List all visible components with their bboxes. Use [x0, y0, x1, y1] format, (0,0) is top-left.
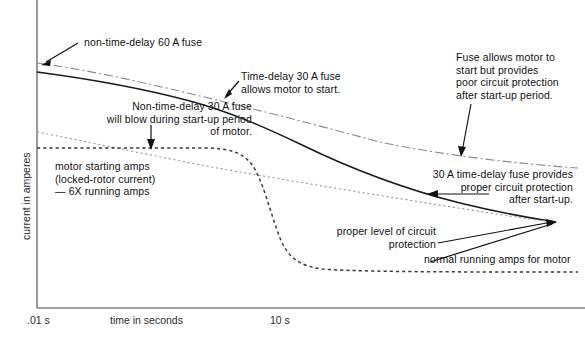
x-axis-tick-left: .01 s — [27, 314, 50, 327]
arrowhead-non-time-delay-60a — [41, 60, 51, 66]
arrowhead-non-time-delay-30a — [147, 139, 155, 150]
annotation-non-time-delay-60a: non-time-delay 60 A fuse — [84, 36, 202, 49]
x-axis-label: time in seconds — [110, 314, 183, 327]
annotation-non-time-delay-30a: Non-time-delay 30 A fuse will blow durin… — [57, 100, 252, 138]
leader-line-proper-level-upper — [438, 222, 552, 243]
x-axis-tick-right: 10 s — [270, 314, 290, 327]
annotation-proper-level-protection: proper level of circuit protection — [326, 225, 436, 250]
annotation-motor-starting-amps: motor starting amps (locked-rotor curren… — [55, 160, 155, 198]
leader-line-fuse-allows — [462, 104, 471, 152]
annotation-fuse-allows-motor: Fuse allows motor to start but provides … — [456, 51, 559, 101]
y-axis-label: current in amperes — [20, 152, 33, 240]
arrowhead-proper-level — [546, 219, 557, 227]
annotation-normal-running-amps: normal running amps for motor — [424, 253, 571, 266]
leader-line-non-time-delay-60a — [46, 43, 78, 62]
annotation-time-delay-30a: Time-delay 30 A fuse allows motor to sta… — [241, 70, 341, 95]
time-current-curve-chart: non-time-delay 60 A fuse Time-delay 30 A… — [0, 0, 585, 345]
annotation-time-delay-provides: 30 A time-delay fuse provides proper cir… — [361, 168, 573, 206]
